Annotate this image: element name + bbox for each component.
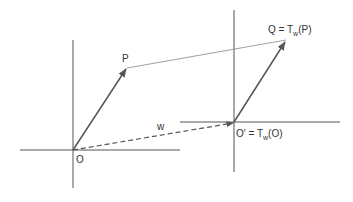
label-q-suffix: (P)	[298, 24, 311, 35]
label-p: P	[122, 53, 129, 64]
label-origin: O	[76, 154, 84, 165]
vector-oprime-q	[234, 42, 285, 122]
vector-w	[73, 123, 233, 150]
label-origin-prime: O' = Tw(O)	[236, 128, 283, 141]
label-q: Q = Tw(P)	[268, 24, 312, 37]
label-oprime-suffix: (O)	[268, 128, 282, 139]
label-q-prefix: Q = T	[268, 24, 293, 35]
label-w: w	[156, 121, 165, 132]
vector-op	[73, 69, 126, 150]
label-oprime-prefix: O' = T	[236, 128, 263, 139]
translation-diagram: O P w Q = Tw(P) O' = Tw(O)	[0, 0, 353, 202]
p-to-q-connector	[127, 40, 286, 68]
